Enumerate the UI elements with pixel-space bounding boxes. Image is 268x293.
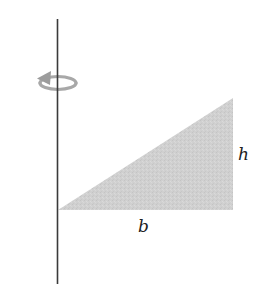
solid-of-revolution-diagram: h b — [0, 0, 268, 293]
diagram-canvas — [0, 0, 268, 293]
triangle-region — [58, 98, 233, 210]
base-label: b — [138, 218, 149, 235]
height-label: h — [238, 146, 249, 163]
rotation-arrow-icon — [37, 71, 76, 90]
